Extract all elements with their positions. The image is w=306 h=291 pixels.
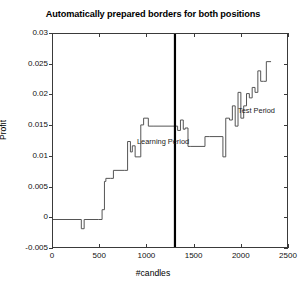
x-tick-mark [288, 244, 289, 248]
y-tick-label: 0.025 [28, 60, 48, 68]
x-tick-mark [99, 244, 100, 248]
test-period-label: Test Period [238, 106, 275, 115]
x-tick-label: 1000 [126, 252, 166, 260]
y-tick-label: 0.01 [32, 152, 48, 160]
x-tick-mark-top [146, 33, 147, 37]
y-tick-mark [49, 217, 53, 218]
x-tick-label: 2500 [268, 252, 306, 260]
x-tick-label: 500 [79, 252, 119, 260]
y-tick-mark-right [284, 187, 288, 188]
x-tick-mark-top [52, 33, 53, 37]
x-tick-label: 2000 [221, 252, 261, 260]
y-tick-mark-right [284, 94, 288, 95]
chart-title: Automatically prepared borders for both … [0, 9, 306, 19]
x-tick-mark [146, 244, 147, 248]
x-tick-mark [241, 244, 242, 248]
x-tick-mark [194, 244, 195, 248]
x-tick-label: 1500 [174, 252, 214, 260]
x-tick-mark-top [99, 33, 100, 37]
y-tick-mark-right [284, 217, 288, 218]
y-tick-mark [49, 156, 53, 157]
y-tick-mark [49, 187, 53, 188]
y-tick-mark-right [284, 248, 288, 249]
plot-area: Learning Period Test Period [52, 33, 288, 248]
x-tick-mark-top [241, 33, 242, 37]
y-tick-mark [49, 125, 53, 126]
x-tick-mark [52, 244, 53, 248]
y-tick-label: 0.03 [32, 29, 48, 37]
y-tick-label: -0.005 [25, 244, 48, 252]
y-tick-mark [49, 248, 53, 249]
learning-period-label: Learning Period [137, 137, 189, 146]
y-tick-label: 0.015 [28, 121, 48, 129]
chart-figure: Automatically prepared borders for both … [0, 0, 306, 291]
x-tick-mark-top [288, 33, 289, 37]
y-tick-mark-right [284, 156, 288, 157]
y-tick-mark [49, 94, 53, 95]
y-tick-label: 0 [44, 213, 48, 221]
x-tick-mark-top [194, 33, 195, 37]
x-tick-label: 0 [32, 252, 72, 260]
y-tick-label: 0.02 [32, 90, 48, 98]
y-tick-label: 0.005 [28, 183, 48, 191]
y-axis-title: Profit [0, 120, 8, 140]
y-tick-mark-right [284, 64, 288, 65]
y-tick-mark-right [284, 125, 288, 126]
y-tick-mark [49, 64, 53, 65]
x-axis-title: #candles [0, 268, 306, 278]
